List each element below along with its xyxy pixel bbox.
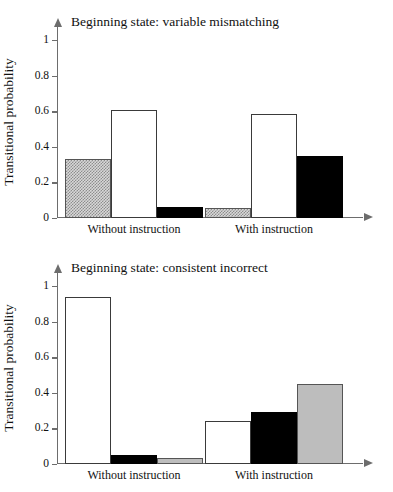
y-axis-tick [52, 322, 57, 323]
y-axis-tick-label: 0.2 [35, 423, 49, 435]
y-axis-tick-label: 0.2 [35, 177, 49, 189]
y-axis-label-bottom: Transitional probability [1, 304, 17, 431]
bar-hatch [205, 208, 251, 218]
y-axis-tick-label: 0.4 [35, 387, 49, 399]
cutoff-header-strip [0, 0, 393, 10]
y-axis-tick [52, 393, 57, 394]
bar-white [205, 421, 251, 464]
y-axis-tick [52, 182, 57, 183]
y-axis-arrow-top [54, 18, 62, 27]
y-axis-tick [52, 40, 57, 41]
y-axis-tick-label: 1 [43, 280, 49, 292]
x-axis-group-label: With instruction [235, 468, 313, 483]
y-axis-tick [52, 286, 57, 287]
y-axis-tick-label: 0.6 [35, 106, 49, 118]
y-axis-tick-label: 0.8 [35, 316, 49, 328]
bar-black [251, 412, 297, 464]
y-axis-tick [52, 218, 57, 219]
y-axis-tick-label: 1 [43, 34, 49, 46]
y-axis-tick-label: 0.4 [35, 141, 49, 153]
y-axis-tick [52, 76, 57, 77]
y-axis-line-top [57, 26, 58, 218]
y-axis-tick [52, 147, 57, 148]
y-axis-tick [52, 357, 57, 358]
bar-white [65, 297, 111, 464]
bar-black [297, 156, 343, 218]
y-axis-tick [52, 428, 57, 429]
plot-area-top: Beginning state: variable mismatching Tr… [57, 26, 369, 218]
bar-white [251, 114, 297, 218]
y-axis-tick-label: 0.8 [35, 70, 49, 82]
chart-title-top: Beginning state: variable mismatching [71, 14, 279, 30]
y-axis-tick [52, 464, 57, 465]
x-axis-group-label: Without instruction [87, 468, 180, 483]
bar-white [111, 110, 157, 218]
y-axis-line-bottom [57, 272, 58, 464]
chart-panel-top: Beginning state: variable mismatching Tr… [0, 12, 393, 244]
chart-title-bottom: Beginning state: consistent incorrect [71, 260, 268, 276]
y-axis-arrow-bottom [54, 264, 62, 273]
bar-gray [157, 458, 203, 464]
bar-hatch [65, 159, 111, 218]
bar-black [157, 207, 203, 218]
bar-gray [297, 384, 343, 464]
x-axis-group-label: With instruction [235, 222, 313, 237]
y-axis-tick-label: 0.6 [35, 352, 49, 364]
x-axis-arrow-top [364, 213, 373, 221]
bar-black [111, 455, 157, 464]
plot-area-bottom: Beginning state: consistent incorrect Tr… [57, 272, 369, 464]
chart-panel-bottom: Beginning state: consistent incorrect Tr… [0, 258, 393, 490]
x-axis-arrow-bottom [364, 459, 373, 467]
y-axis-label-top: Transitional probability [1, 58, 17, 185]
x-axis-group-label: Without instruction [87, 222, 180, 237]
y-axis-tick-label: 0 [43, 212, 49, 224]
figure-two-bar-charts: Beginning state: variable mismatching Tr… [0, 0, 393, 492]
y-axis-tick [52, 111, 57, 112]
y-axis-tick-label: 0 [43, 458, 49, 470]
